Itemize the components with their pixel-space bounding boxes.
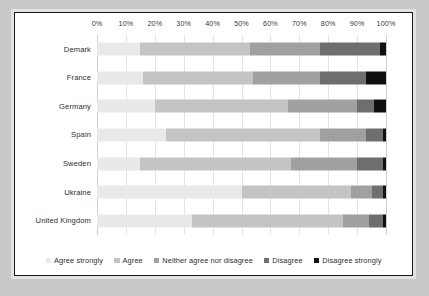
legend-swatch-icon xyxy=(46,258,52,264)
legend-swatch-icon xyxy=(314,258,320,264)
bar-segment[interactable] xyxy=(97,186,242,199)
legend-item[interactable]: Disagree strongly xyxy=(314,256,382,265)
bar-segment[interactable] xyxy=(372,186,384,199)
stacked-bar[interactable] xyxy=(97,214,386,227)
legend-label: Disagree xyxy=(272,256,302,265)
legend-label: Agree strongly xyxy=(54,256,103,265)
category-label: Demark xyxy=(15,45,91,54)
bar-segment[interactable] xyxy=(374,100,386,113)
x-tick-label: 100% xyxy=(377,19,396,28)
bar-segment[interactable] xyxy=(253,71,319,84)
bar-segment[interactable] xyxy=(343,214,369,227)
bar-row[interactable]: Ukraine xyxy=(15,178,412,207)
stacked-bar[interactable] xyxy=(97,128,386,141)
bar-segment[interactable] xyxy=(97,43,140,56)
bar-segment[interactable] xyxy=(320,71,366,84)
x-tick-label: 90% xyxy=(350,19,365,28)
bar-segment[interactable] xyxy=(97,128,166,141)
legend-label: Agree xyxy=(123,256,143,265)
legend-item[interactable]: Agree xyxy=(114,256,143,265)
bar-segment[interactable] xyxy=(383,128,386,141)
bar-rows: DemarkFranceGermanySpainSwedenUkraineUni… xyxy=(15,35,412,235)
bar-segment[interactable] xyxy=(383,186,386,199)
x-axis-tick-labels: 0%10%20%30%40%50%60%70%80%90%100% xyxy=(97,19,386,35)
bar-row[interactable]: United Kingdom xyxy=(15,206,412,235)
x-tick-label: 10% xyxy=(119,19,134,28)
chart-panel: 0%10%20%30%40%50%60%70%80%90%100% Demark… xyxy=(14,12,413,276)
bar-segment[interactable] xyxy=(140,43,250,56)
category-label: Sweden xyxy=(15,159,91,168)
chart-legend: Agree stronglyAgreeNeither agree nor dis… xyxy=(15,256,412,265)
legend-item[interactable]: Neither agree nor disagree xyxy=(154,256,253,265)
bar-segment[interactable] xyxy=(291,157,357,170)
bar-segment[interactable] xyxy=(97,100,155,113)
legend-swatch-icon xyxy=(114,258,120,264)
legend-item[interactable]: Disagree xyxy=(264,256,303,265)
bar-segment[interactable] xyxy=(357,157,383,170)
category-label: Ukraine xyxy=(15,188,91,197)
x-tick-label: 60% xyxy=(263,19,278,28)
bar-segment[interactable] xyxy=(140,157,290,170)
x-tick-label: 20% xyxy=(147,19,162,28)
x-tick-label: 50% xyxy=(234,19,249,28)
bar-segment[interactable] xyxy=(155,100,288,113)
bar-segment[interactable] xyxy=(357,100,374,113)
stacked-bar[interactable] xyxy=(97,43,386,56)
category-label: United Kingdom xyxy=(15,216,91,225)
bar-segment[interactable] xyxy=(351,186,371,199)
plot-area: 0%10%20%30%40%50%60%70%80%90%100% Demark… xyxy=(15,13,412,275)
bar-segment[interactable] xyxy=(250,43,319,56)
bar-segment[interactable] xyxy=(166,128,319,141)
stacked-bar[interactable] xyxy=(97,100,386,113)
x-tick-label: 30% xyxy=(176,19,191,28)
legend-item[interactable]: Agree strongly xyxy=(46,256,104,265)
x-tick-label: 80% xyxy=(321,19,336,28)
bar-segment[interactable] xyxy=(97,157,140,170)
bar-segment[interactable] xyxy=(383,214,386,227)
bar-segment[interactable] xyxy=(383,157,386,170)
x-tick-label: 70% xyxy=(292,19,307,28)
bar-segment[interactable] xyxy=(369,214,383,227)
bar-segment[interactable] xyxy=(366,71,386,84)
legend-swatch-icon xyxy=(264,258,270,264)
bar-segment[interactable] xyxy=(288,100,357,113)
legend-label: Neither agree nor disagree xyxy=(162,256,253,265)
x-tick-label: 40% xyxy=(205,19,220,28)
bar-segment[interactable] xyxy=(97,71,143,84)
legend-label: Disagree strongly xyxy=(322,256,381,265)
category-label: France xyxy=(15,73,91,82)
x-tick-label: 0% xyxy=(92,19,103,28)
bar-row[interactable]: France xyxy=(15,64,412,93)
bar-segment[interactable] xyxy=(320,128,366,141)
legend-swatch-icon xyxy=(154,258,160,264)
category-label: Germany xyxy=(15,102,91,111)
bar-segment[interactable] xyxy=(366,128,383,141)
category-label: Spain xyxy=(15,130,91,139)
bar-row[interactable]: Sweden xyxy=(15,149,412,178)
stacked-bar[interactable] xyxy=(97,186,386,199)
stacked-bar[interactable] xyxy=(97,71,386,84)
bar-segment[interactable] xyxy=(380,43,386,56)
bar-segment[interactable] xyxy=(143,71,253,84)
bar-row[interactable]: Demark xyxy=(15,35,412,64)
bar-segment[interactable] xyxy=(97,214,192,227)
stacked-bar[interactable] xyxy=(97,157,386,170)
bar-row[interactable]: Spain xyxy=(15,121,412,150)
bar-segment[interactable] xyxy=(242,186,352,199)
bar-segment[interactable] xyxy=(320,43,381,56)
bar-row[interactable]: Germany xyxy=(15,92,412,121)
bar-segment[interactable] xyxy=(192,214,342,227)
